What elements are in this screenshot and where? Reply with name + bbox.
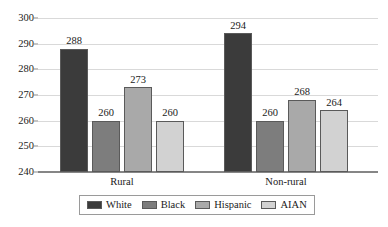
- bar-nonrural-white[interactable]: [224, 33, 252, 172]
- bar-wrap-rural-hispanic: 273: [124, 18, 152, 172]
- legend-swatch-hispanic-icon: [195, 201, 210, 209]
- bar-wrap-nonrural-aian: 264: [320, 18, 348, 172]
- legend-label-hispanic: Hispanic: [214, 200, 251, 211]
- bar-wrap-rural-black: 260: [92, 18, 120, 172]
- legend-swatch-white-icon: [87, 201, 102, 209]
- y-axis-tick-280: 280: [4, 64, 34, 75]
- bar-nonrural-aian[interactable]: [320, 110, 348, 172]
- x-axis-category-rural: Rural: [62, 176, 182, 187]
- legend-swatch-black-icon: [142, 201, 157, 209]
- x-axis-category-nonrural: Non-rural: [226, 176, 346, 187]
- legend-label-black: Black: [161, 200, 186, 211]
- bar-wrap-nonrural-hispanic: 268: [288, 18, 316, 172]
- legend-label-aian: AIAN: [280, 200, 306, 211]
- y-axis-tick-240: 240: [4, 167, 34, 178]
- bar-wrap-rural-aian: 260: [156, 18, 184, 172]
- bar-nonrural-hispanic[interactable]: [288, 100, 316, 172]
- legend: White Black Hispanic AIAN: [79, 195, 315, 215]
- legend-label-white: White: [106, 200, 132, 211]
- y-axis-tick-290: 290: [4, 38, 34, 49]
- bar-value-nonrural-aian: 264: [304, 98, 364, 109]
- bar-nonrural-black[interactable]: [256, 121, 284, 172]
- y-axis-tick-300: 300: [4, 13, 34, 24]
- bar-rural-black[interactable]: [92, 121, 120, 172]
- bar-group-rural: 288 260 273 260: [60, 18, 184, 172]
- legend-item-white[interactable]: White: [87, 200, 132, 211]
- bar-wrap-nonrural-white: 294: [224, 18, 252, 172]
- y-axis-tick-250: 250: [4, 141, 34, 152]
- bar-chart: 300 290 280 270 260 250 240 288 260: [0, 0, 388, 227]
- y-axis-tick-270: 270: [4, 90, 34, 101]
- legend-item-aian[interactable]: AIAN: [261, 200, 306, 211]
- y-axis-tick-260: 260: [4, 115, 34, 126]
- bar-value-rural-aian: 260: [140, 108, 200, 119]
- bar-rural-hispanic[interactable]: [124, 87, 152, 172]
- legend-item-hispanic[interactable]: Hispanic: [195, 200, 251, 211]
- legend-swatch-aian-icon: [261, 201, 276, 209]
- bar-rural-aian[interactable]: [156, 121, 184, 172]
- legend-item-black[interactable]: Black: [142, 200, 186, 211]
- bar-group-nonrural: 294 260 268 264: [224, 18, 348, 172]
- bar-wrap-rural-white: 288: [60, 18, 88, 172]
- plot-area: 288 260 273 260 294 260: [38, 18, 378, 172]
